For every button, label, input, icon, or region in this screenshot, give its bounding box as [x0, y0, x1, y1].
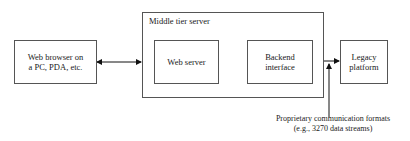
backend-label-line2: interface: [265, 62, 295, 72]
web-server-label: Web server: [167, 57, 205, 67]
web-server-box: Web server: [154, 40, 219, 84]
browser-label-line2: a PC, PDA, etc.: [29, 62, 83, 72]
legacy-label-line2: platform: [349, 62, 378, 72]
annotation-line2: (e.g., 3270 data streams): [258, 124, 408, 134]
browser-box: Web browser on a PC, PDA, etc.: [14, 40, 97, 84]
annotation-caption: Proprietary communication formats (e.g.,…: [258, 114, 408, 134]
legacy-label-line1: Legacy: [351, 52, 376, 62]
legacy-platform-box: Legacy platform: [340, 40, 388, 84]
middle-tier-server-title: Middle tier server: [149, 16, 210, 26]
annotation-line1: Proprietary communication formats: [258, 114, 408, 124]
backend-interface-box: Backend interface: [247, 40, 313, 84]
backend-label-line1: Backend: [265, 52, 295, 62]
browser-label-line1: Web browser on: [28, 52, 84, 62]
